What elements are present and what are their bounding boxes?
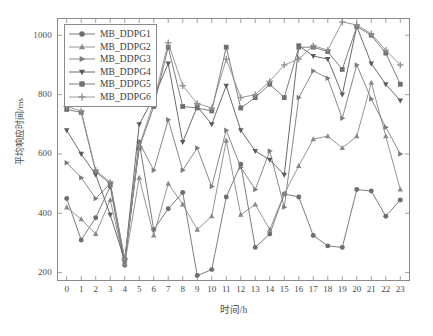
y-tick-label: 600 (38, 149, 52, 158)
y-tick-label: 400 (38, 209, 52, 218)
x-axis-title: 时间/h (57, 302, 410, 316)
legend-label: MB_DDPG4 (96, 66, 151, 78)
legend-marker-triangle-up-icon (68, 41, 96, 53)
y-tick-label: 200 (38, 268, 52, 277)
legend-item-MB_DDPG2[interactable]: MB_DDPG2 (68, 41, 151, 54)
legend-label: MB_DDPG1 (96, 28, 151, 40)
legend-marker-plus-icon (68, 91, 96, 103)
legend-item-MB_DDPG5[interactable]: MB_DDPG5 (68, 78, 151, 91)
chart-legend: MB_DDPG1MB_DDPG2MB_DDPG3MB_DDPG4MB_DDPG5… (64, 24, 157, 107)
legend-marker-circle-icon (68, 28, 96, 40)
chart-container: 2004006008001000 平均响应时间/ms MB_DDPG1MB_DD… (0, 0, 433, 336)
legend-marker-square-icon (68, 78, 96, 90)
legend-item-MB_DDPG1[interactable]: MB_DDPG1 (68, 28, 151, 41)
legend-label: MB_DDPG2 (96, 41, 151, 53)
legend-item-MB_DDPG3[interactable]: MB_DDPG3 (68, 53, 151, 66)
legend-label: MB_DDPG3 (96, 53, 151, 65)
y-axis-labels: 2004006008001000 (0, 0, 52, 336)
legend-item-MB_DDPG6[interactable]: MB_DDPG6 (68, 91, 151, 104)
x-tick-label: 23 (389, 284, 411, 294)
y-axis-title: 平均响应时间/ms (13, 67, 26, 197)
legend-label: MB_DDPG5 (96, 78, 151, 90)
y-tick-label: 800 (38, 90, 52, 99)
legend-item-MB_DDPG4[interactable]: MB_DDPG4 (68, 66, 151, 79)
legend-marker-triangle-down-icon (68, 66, 96, 78)
y-tick-label: 1000 (33, 31, 52, 40)
x-axis-labels: 01234567891011121314151617181920212223 (57, 284, 410, 298)
legend-marker-triangle-right-icon (68, 53, 96, 65)
legend-label: MB_DDPG6 (96, 91, 151, 103)
